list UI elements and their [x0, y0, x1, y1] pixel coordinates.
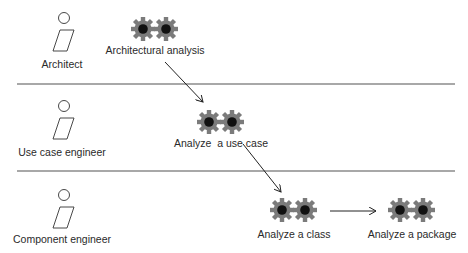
worker-icon-component-engineer	[53, 190, 74, 229]
worker-icon-use-case-engineer	[53, 101, 74, 140]
arrow-architectural-to-use-case	[165, 62, 203, 102]
arrow-use-case-to-class	[243, 144, 281, 192]
gear-icon-analyze-class	[270, 198, 317, 222]
gear-icon-analyze-use-case	[197, 110, 244, 134]
activity-label-analyze-class: Analyze a class	[258, 228, 331, 240]
gear-icon-architectural-analysis	[131, 17, 178, 41]
gear-icon-analyze-package	[388, 198, 435, 222]
activity-label-architectural-analysis: Architectural analysis	[105, 44, 204, 56]
worker-label-component-engineer: Component engineer	[13, 233, 111, 245]
activity-label-analyze-package: Analyze a package	[368, 228, 457, 240]
worker-label-use-case-engineer: Use case engineer	[18, 146, 106, 158]
worker-label-architect: Architect	[42, 58, 83, 70]
worker-icon-architect	[53, 13, 74, 52]
activity-label-analyze-use-case: Analyze a use case	[174, 137, 268, 149]
diagram-canvas	[0, 0, 468, 253]
